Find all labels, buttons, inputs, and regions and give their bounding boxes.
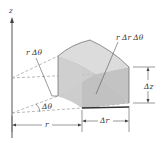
z-axis: z (8, 7, 14, 138)
volume-bottom-edge (82, 107, 129, 108)
arc-length-label: r Δθ (26, 48, 42, 57)
angle-label: Δθ (41, 102, 52, 111)
volume-element (58, 40, 129, 108)
cylindrical-volume-element-diagram: z (0, 0, 166, 143)
radial-dimensions (12, 106, 129, 132)
height-label: Δz (143, 82, 153, 91)
z-axis-label: z (8, 7, 13, 15)
volume-label: r Δr Δθ (116, 33, 144, 42)
z-axis-arrow-icon (10, 17, 14, 23)
radius-label: r (45, 120, 49, 129)
radial-width-label: Δr (99, 116, 109, 125)
